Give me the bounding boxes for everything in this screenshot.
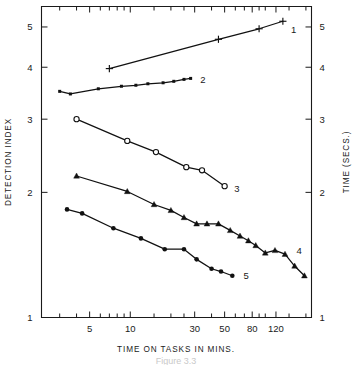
y-tick-label-left: 5 — [27, 21, 32, 32]
series-line-3 — [77, 119, 225, 186]
marker-square — [58, 90, 61, 93]
marker-dot — [194, 257, 199, 262]
y-tick-label-left: 3 — [27, 114, 32, 125]
marker-triangle — [246, 238, 252, 243]
y-tick-label-right: 1 — [320, 312, 325, 323]
y-tick-label-right: 3 — [320, 114, 325, 125]
marker-circle-open — [199, 168, 204, 173]
marker-triangle — [74, 173, 80, 178]
marker-square — [120, 85, 123, 88]
x-tick-label: 30 — [189, 323, 200, 334]
x-axis-title: TIME ON TASKS IN MINS. — [117, 345, 235, 354]
y-tick-label-left: 4 — [27, 62, 32, 73]
y-tick-label-right: 4 — [320, 62, 325, 73]
marker-dot — [219, 269, 224, 274]
marker-circle-open — [184, 165, 189, 170]
series-line-4 — [77, 176, 305, 276]
series-line-5 — [67, 209, 232, 275]
series-label-5: 5 — [244, 270, 249, 281]
x-tick-label: 50 — [219, 323, 230, 334]
x-tick-label: 80 — [247, 323, 258, 334]
y-tick-label-left: 2 — [27, 187, 32, 198]
series-3 — [74, 117, 227, 189]
marker-plus — [255, 25, 262, 32]
figure-caption: Figure 3.3 — [156, 356, 197, 365]
marker-square — [172, 80, 175, 83]
marker-dot — [65, 207, 70, 212]
marker-square — [69, 92, 72, 95]
tick-labels: 5103050801201234512345 — [27, 21, 325, 333]
marker-square — [182, 78, 185, 81]
detection-index-vs-time-chart: 5103050801201234512345 12345 TIME ON TAS… — [0, 0, 361, 365]
marker-dot — [111, 226, 116, 231]
marker-square — [162, 81, 165, 84]
series-line-2 — [60, 78, 191, 94]
x-tick-label: 10 — [125, 323, 136, 334]
marker-dot — [230, 273, 235, 278]
series-1 — [106, 18, 287, 73]
marker-triangle — [272, 247, 278, 252]
series-label-3: 3 — [234, 183, 239, 194]
y-axis-title-left: DETECTION INDEX — [4, 118, 13, 206]
x-tick-label: 120 — [268, 323, 284, 334]
marker-dot — [162, 247, 167, 252]
marker-square — [189, 77, 192, 80]
marker-plus — [279, 18, 286, 25]
marker-plus — [106, 65, 113, 72]
data-series — [58, 18, 307, 278]
y-tick-label-right: 5 — [320, 21, 325, 32]
marker-triangle — [237, 233, 243, 238]
marker-square — [97, 87, 100, 90]
series-5 — [65, 207, 235, 278]
marker-circle-open — [222, 184, 227, 189]
marker-triangle — [227, 227, 233, 232]
series-label-4: 4 — [296, 245, 301, 256]
figure-container: 5103050801201234512345 12345 TIME ON TAS… — [0, 0, 361, 365]
marker-dot — [182, 247, 187, 252]
marker-triangle — [253, 243, 259, 248]
x-tick-label: 5 — [87, 323, 92, 334]
y-tick-label-right: 2 — [320, 187, 325, 198]
marker-circle-open — [74, 117, 79, 122]
series-label-2: 2 — [200, 74, 205, 85]
marker-square — [146, 82, 149, 85]
marker-square — [134, 84, 137, 87]
series-2 — [58, 77, 192, 96]
marker-dot — [80, 211, 85, 216]
marker-dot — [209, 266, 214, 271]
marker-circle-open — [125, 138, 130, 143]
series-label-1: 1 — [291, 24, 296, 35]
marker-circle-open — [153, 149, 158, 154]
y-axis-title-right: TIME (SECS.) — [342, 131, 351, 194]
y-tick-label-left: 1 — [27, 312, 32, 323]
marker-plus — [215, 36, 222, 43]
marker-dot — [139, 236, 144, 241]
